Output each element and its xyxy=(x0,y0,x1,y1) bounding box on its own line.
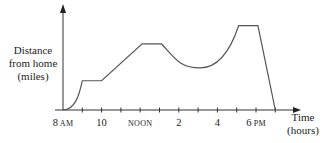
y-axis-label: Distance from home (miles) xyxy=(2,44,64,83)
x-tick-label: 10 xyxy=(96,117,107,128)
x-axis-label-line-1: Time xyxy=(284,111,322,124)
x-tick-label: NOON xyxy=(128,117,152,128)
distance-curve xyxy=(63,26,275,110)
y-axis-label-line-2: from home xyxy=(2,57,64,70)
y-axis-arrow-icon xyxy=(60,4,66,13)
x-axis-label-line-2: (hours) xyxy=(284,124,322,137)
x-axis-label: Time (hours) xyxy=(284,111,322,137)
y-axis-label-line-3: (miles) xyxy=(2,70,64,83)
x-tick-label: 2 xyxy=(176,117,181,128)
x-tick-label: 8 AM xyxy=(53,117,74,128)
x-tick-label: 4 xyxy=(215,117,220,128)
y-axis-label-line-1: Distance xyxy=(2,44,64,57)
x-tick-label: 6 PM xyxy=(246,117,266,128)
